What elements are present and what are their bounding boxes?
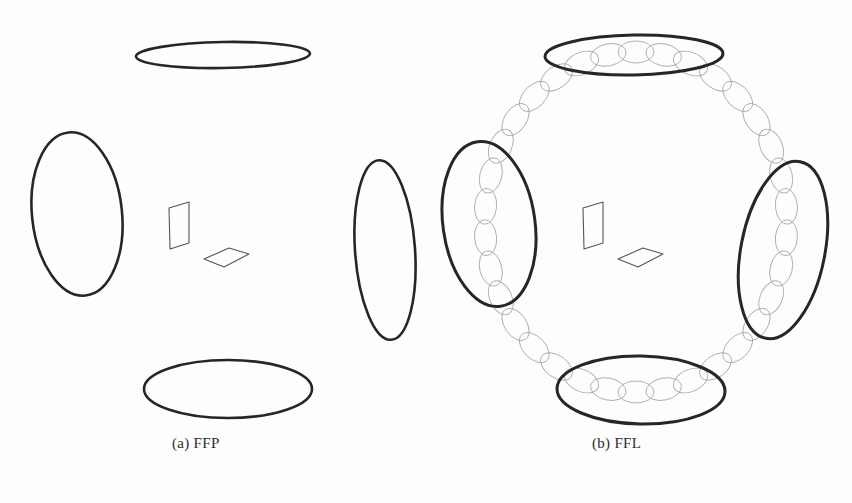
- bottom-coil: [556, 355, 725, 426]
- chain-link: [561, 363, 603, 398]
- chain-link: [754, 277, 789, 319]
- chain-link: [754, 125, 789, 167]
- field-line-chain: [473, 40, 799, 403]
- top-coil: [545, 33, 724, 76]
- panel-b-caption: (b) FFL: [592, 435, 641, 452]
- chain-link: [717, 76, 758, 117]
- panel-a-caption: (a) FFP: [172, 435, 220, 452]
- chain-link: [514, 76, 555, 117]
- right-coil: [725, 154, 842, 347]
- right-coil: [349, 158, 421, 342]
- vertical-plate: [169, 202, 189, 249]
- chain-link: [514, 327, 555, 368]
- diagram-svg: [0, 0, 852, 503]
- chain-link: [535, 347, 577, 386]
- chain-link: [496, 99, 534, 141]
- chain-link: [737, 99, 775, 141]
- chain-link: [670, 46, 712, 81]
- bottom-coil: [144, 360, 312, 418]
- chain-link: [561, 46, 603, 81]
- chain-link: [535, 58, 577, 97]
- top-coil: [136, 40, 310, 69]
- panel-b: [432, 33, 842, 425]
- chain-link: [694, 58, 736, 97]
- panel-a: [24, 40, 422, 418]
- chain-link: [483, 277, 518, 319]
- chain-link: [496, 303, 534, 345]
- chain-link: [717, 327, 758, 368]
- chain-link: [618, 41, 654, 63]
- left-coil: [24, 128, 131, 301]
- horizontal-plate: [204, 248, 249, 267]
- horizontal-plate: [618, 248, 663, 267]
- vertical-plate: [583, 202, 603, 249]
- chain-link: [618, 381, 654, 403]
- figure-canvas: [0, 0, 852, 503]
